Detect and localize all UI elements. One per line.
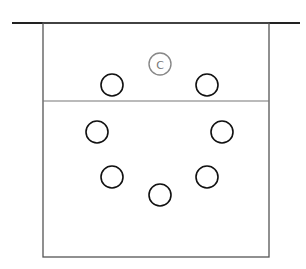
center-marker: C [149,53,171,75]
player-position-circle-icon [86,121,108,143]
player-position-circle-icon [149,184,171,206]
player-position-circle-icon [101,166,123,188]
center-label: C [156,59,164,72]
player-position-circle-icon [196,166,218,188]
player-position-circle-icon [196,74,218,96]
player-position-circle-icon [101,74,123,96]
player-positions [86,74,233,206]
court-diagram: C [0,0,306,269]
player-position-circle-icon [211,121,233,143]
